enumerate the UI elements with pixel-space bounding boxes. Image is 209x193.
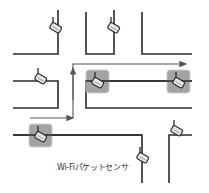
sensor-label: Wi-Fiパケットセンサ (57, 161, 129, 172)
block-top-middle (86, 10, 114, 54)
wifi-sensor-icon (170, 120, 183, 137)
wifi-sensor-icon (34, 68, 47, 85)
sensors (34, 17, 185, 164)
wifi-sensor-icon (49, 17, 62, 34)
block-top-left (13, 10, 58, 54)
street-blocks (13, 10, 192, 183)
street-map-diagram: Wi-Fiパケットセンサ (0, 0, 209, 193)
block-bottom-right (169, 135, 192, 183)
block-top-right (142, 12, 192, 54)
block-middle-left (13, 81, 58, 108)
